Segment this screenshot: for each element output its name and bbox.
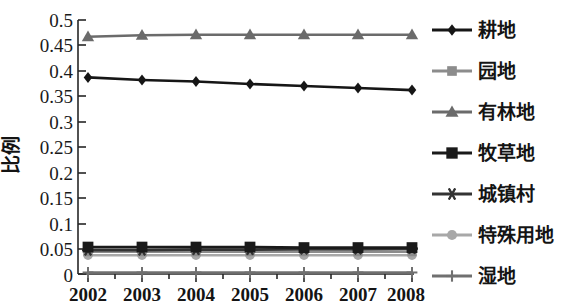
x-tick-label: 2004	[177, 284, 216, 305]
legend-item-园地[interactable]: 园地	[432, 60, 516, 82]
x-tick-label: 2005	[231, 284, 269, 305]
y-tick-label: 0.2	[49, 163, 73, 184]
y-axis-tick-labels: 0.5 0.45 0.4 0.35 0.3 0.25 0.2 0.15 0.1 …	[40, 10, 74, 286]
chart-legend: 耕地园地有林地牧草地城镇村特殊用地湿地	[432, 19, 554, 287]
legend-item-耕地[interactable]: 耕地	[432, 19, 516, 41]
x-tick-label: 2006	[285, 284, 323, 305]
legend-label: 园地	[478, 60, 516, 82]
legend-item-有林地[interactable]: 有林地	[432, 101, 535, 123]
axis-frame	[78, 20, 414, 274]
y-tick-label: 0.1	[49, 214, 73, 235]
y-tick-label: 0.5	[49, 10, 73, 31]
x-tick-label: 2008	[387, 284, 425, 305]
chart-container: 比例 0.5 0.45 0.4 0.35 0.3 0.25 0.2 0.15 0…	[0, 0, 567, 306]
x-tick-label: 2007	[339, 284, 378, 305]
y-tick-label: 0.25	[40, 137, 73, 158]
y-tick-label: 0	[64, 265, 74, 286]
legend-label: 牧草地	[478, 142, 535, 164]
y-tick-marks	[78, 20, 86, 274]
legend-item-牧草地[interactable]: 牧草地	[432, 142, 535, 164]
x-axis-tick-labels: 2002 2003 2004 2005 2006 2007 2008	[69, 284, 425, 305]
series-耕地	[84, 72, 417, 96]
legend-label: 特殊用地	[478, 224, 554, 246]
y-tick-label: 0.45	[40, 35, 73, 56]
y-axis-label: 比例	[0, 136, 22, 174]
series-layer	[82, 29, 418, 278]
legend-item-特殊用地[interactable]: 特殊用地	[432, 224, 554, 246]
legend-label: 有林地	[478, 101, 535, 123]
y-tick-label: 0.3	[49, 112, 73, 133]
legend-label: 湿地	[478, 265, 516, 287]
y-tick-label: 0.4	[49, 61, 73, 82]
legend-label: 耕地	[478, 19, 516, 41]
series-有林地	[82, 29, 418, 42]
y-tick-label: 0.15	[40, 188, 73, 209]
x-tick-label: 2002	[69, 284, 107, 305]
series-湿地	[83, 267, 418, 278]
y-tick-label: 0.05	[40, 239, 73, 260]
legend-item-城镇村[interactable]: 城镇村	[432, 183, 535, 205]
legend-label: 城镇村	[478, 183, 535, 205]
line-chart: 比例 0.5 0.45 0.4 0.35 0.3 0.25 0.2 0.15 0…	[0, 0, 567, 306]
y-tick-label: 0.35	[40, 86, 73, 107]
legend-item-湿地[interactable]: 湿地	[432, 265, 516, 287]
x-tick-label: 2003	[123, 284, 161, 305]
